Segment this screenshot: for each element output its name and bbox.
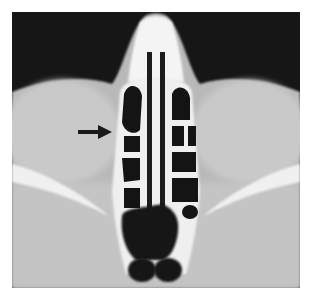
ct-scan-image <box>12 12 300 288</box>
